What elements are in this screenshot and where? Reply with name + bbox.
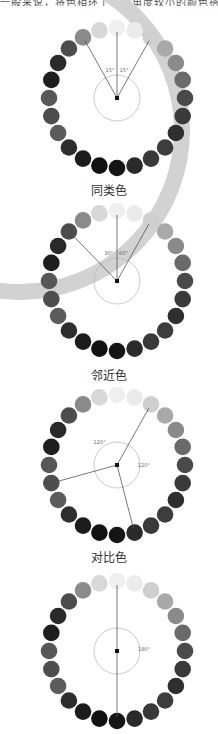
angle-line — [117, 465, 134, 529]
angle-label: 15° — [120, 67, 129, 73]
color-dot — [43, 291, 60, 308]
color-dot — [143, 396, 160, 413]
angle-label: 30° — [104, 250, 113, 256]
color-wheel-complementary: 180° — [0, 561, 218, 734]
angle-label: 15° — [106, 67, 115, 73]
color-dot — [174, 255, 191, 272]
color-dot — [109, 160, 126, 177]
color-dot — [174, 661, 191, 678]
color-dot — [143, 517, 160, 534]
color-dot — [177, 90, 194, 107]
color-dot — [174, 108, 191, 125]
center-point — [115, 96, 119, 100]
color-dot — [91, 524, 108, 541]
color-dot — [43, 439, 60, 456]
color-dot — [168, 238, 185, 255]
color-dot — [75, 517, 92, 534]
color-dot — [126, 22, 143, 39]
angle-label: 180° — [138, 646, 151, 652]
color-dot — [126, 205, 143, 222]
color-dot — [75, 703, 92, 720]
color-dot — [126, 575, 143, 592]
color-dot — [75, 150, 92, 167]
color-dot — [143, 212, 160, 229]
color-dot — [91, 389, 108, 406]
angle-line — [72, 234, 117, 281]
center-point — [115, 649, 119, 653]
color-dot — [41, 90, 58, 107]
color-dot — [75, 396, 92, 413]
color-dot — [50, 238, 67, 255]
color-dot — [91, 575, 108, 592]
color-dot — [126, 524, 143, 541]
color-dot — [143, 582, 160, 599]
color-dot — [91, 22, 108, 39]
color-dot — [91, 157, 108, 174]
color-dot — [168, 492, 185, 509]
color-dot — [43, 255, 60, 272]
color-dot — [143, 29, 160, 46]
color-dot — [126, 710, 143, 727]
color-dot — [75, 582, 92, 599]
color-dot — [157, 506, 174, 523]
color-dot — [61, 506, 78, 523]
color-dot — [177, 457, 194, 474]
color-dot — [61, 593, 78, 610]
color-dot — [168, 125, 185, 142]
angle-label: 60° — [119, 250, 128, 256]
center-point — [115, 279, 119, 283]
color-dot — [50, 678, 67, 695]
color-dot — [50, 422, 67, 439]
color-dot — [109, 387, 126, 404]
color-dot — [174, 475, 191, 492]
color-dot — [126, 157, 143, 174]
color-dot — [91, 205, 108, 222]
color-dot — [75, 333, 92, 350]
color-dot — [91, 340, 108, 357]
color-dot — [168, 422, 185, 439]
color-dot — [75, 212, 92, 229]
color-dot — [143, 150, 160, 167]
color-dot — [43, 72, 60, 89]
color-dot — [109, 343, 126, 360]
color-dot — [41, 273, 58, 290]
color-dot — [109, 527, 126, 544]
color-dot — [174, 439, 191, 456]
color-dot — [50, 308, 67, 325]
color-dot — [157, 139, 174, 156]
color-dot — [143, 333, 160, 350]
angle-label: 120° — [138, 462, 151, 468]
color-dot — [75, 29, 92, 46]
color-dot — [174, 625, 191, 642]
color-dot — [143, 703, 160, 720]
color-dot — [50, 608, 67, 625]
angle-line — [117, 408, 149, 465]
angle-line — [55, 465, 117, 482]
center-point — [115, 463, 119, 467]
color-dot — [50, 55, 67, 72]
color-dot — [61, 407, 78, 424]
color-dot — [157, 40, 174, 57]
color-dot — [168, 608, 185, 625]
color-dot — [50, 125, 67, 142]
color-dot — [157, 407, 174, 424]
color-dot — [43, 625, 60, 642]
color-dot — [43, 108, 60, 125]
color-dot — [157, 223, 174, 240]
color-dot — [177, 273, 194, 290]
color-dot — [177, 643, 194, 660]
color-dot — [168, 678, 185, 695]
color-dot — [43, 661, 60, 678]
color-dot — [61, 40, 78, 57]
color-wheel-same-type: 15°15° — [0, 8, 218, 188]
color-dot — [41, 643, 58, 660]
color-dot — [168, 55, 185, 72]
color-dot — [41, 457, 58, 474]
color-dot — [61, 139, 78, 156]
color-dot — [157, 692, 174, 709]
color-wheel-adjacent: 30°60° — [0, 191, 218, 371]
color-dot — [91, 710, 108, 727]
color-dot — [174, 72, 191, 89]
color-dot — [61, 692, 78, 709]
color-dot — [50, 492, 67, 509]
